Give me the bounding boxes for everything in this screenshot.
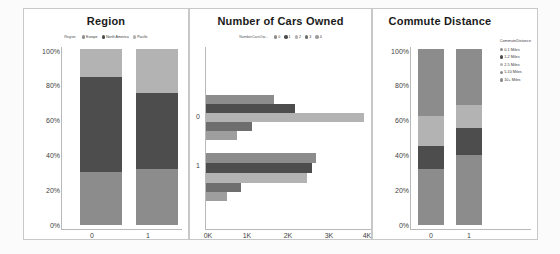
segment-5-10-miles[interactable] (418, 74, 444, 116)
y-tick-label: 60% (377, 117, 409, 124)
legend-label: Pacific (137, 35, 148, 39)
legend-swatch-icon (284, 35, 287, 38)
legend-swatch-icon (102, 35, 105, 38)
segment-1-2-miles[interactable] (418, 146, 444, 169)
y-category-label-1: 1 (196, 162, 200, 169)
plot-area-cars (206, 49, 371, 229)
segment-north-america[interactable] (136, 93, 178, 169)
bar-cars-1-g0[interactable] (206, 104, 295, 113)
legend-region[interactable]: Region Europe North America Pacific (24, 35, 188, 39)
bar-cars-0-g0[interactable] (206, 95, 274, 104)
bar-cars-2-g0[interactable] (206, 113, 364, 122)
stacked-column-1[interactable] (456, 49, 482, 225)
y-tick-label: 40% (28, 152, 60, 159)
bar-cars-4-g0[interactable] (206, 131, 237, 140)
axis-line-x (61, 229, 182, 230)
bar-cars-2-g1[interactable] (206, 173, 307, 183)
legend-swatch-icon (305, 35, 308, 38)
legend-item-cars-4[interactable]: 4 (315, 35, 321, 39)
x-category-label-1: 1 (146, 232, 150, 239)
segment-2-5-miles[interactable] (418, 116, 444, 146)
segment-5-10-miles[interactable] (456, 70, 482, 105)
segment-2-5-miles[interactable] (456, 105, 482, 128)
legend-label: 3 (309, 35, 311, 39)
stacked-column-1[interactable] (136, 49, 178, 225)
chart-panel-region[interactable]: Region Region Europe North America Pacif… (23, 8, 189, 240)
legend-cars[interactable]: NumberCarsOw... 0 1 2 3 4 (190, 35, 371, 39)
y-tick-label: 80% (377, 82, 409, 89)
bar-cars-4-g1[interactable] (206, 192, 227, 201)
segment-europe[interactable] (80, 172, 122, 225)
x-tick-label: 1K (243, 232, 252, 239)
legend-item-cars-2[interactable]: 2 (295, 35, 301, 39)
legend-swatch-icon (133, 35, 136, 38)
y-tick-label: 40% (377, 152, 409, 159)
plot-area-region (68, 49, 182, 225)
legend-item-pacific[interactable]: Pacific (133, 35, 148, 39)
chart-title-commute: Commute Distance (373, 15, 507, 27)
chart-panel-cars[interactable]: Number of Cars Owned NumberCarsOw... 0 1… (189, 8, 372, 240)
y-tick-label: 100% (377, 48, 409, 55)
x-tick-label: 0K (204, 232, 213, 239)
x-category-label-0: 0 (90, 232, 94, 239)
legend-label: 0 (278, 35, 280, 39)
x-tick-label: 4K (363, 232, 372, 239)
segment-1-2-miles[interactable] (456, 128, 482, 154)
x-category-label-1: 1 (467, 232, 471, 239)
legend-label: 4 (320, 35, 322, 39)
stacked-column-0[interactable] (418, 49, 444, 225)
legend-swatch-icon (315, 35, 318, 38)
visualization-canvas: Region Region Europe North America Pacif… (0, 0, 560, 254)
axis-line-x (410, 229, 531, 230)
chart-title-region: Region (24, 15, 188, 27)
segment-pacific[interactable] (80, 49, 122, 77)
y-tick-label: 0% (377, 222, 409, 229)
plot-area-commute (417, 49, 531, 225)
stacked-column-0[interactable] (80, 49, 122, 225)
legend-label: 1 (289, 35, 291, 39)
legend-item-cars-1[interactable]: 1 (284, 35, 290, 39)
y-category-label-0: 0 (196, 113, 200, 120)
segment-10-plus-miles[interactable] (456, 49, 482, 70)
legend-swatch-icon (295, 35, 298, 38)
y-tick-label: 0% (28, 222, 60, 229)
legend-item-europe[interactable]: Europe (82, 35, 98, 39)
bar-cars-0-g1[interactable] (206, 153, 316, 163)
legend-title-cars: NumberCarsOw... (239, 35, 268, 39)
segment-europe[interactable] (136, 169, 178, 225)
legend-title-region: Region (64, 35, 75, 39)
legend-label: Europe (86, 35, 98, 39)
x-tick-label: 2K (284, 232, 293, 239)
segment-pacific[interactable] (136, 49, 178, 93)
axis-line-y (61, 47, 62, 229)
axis-line-y (410, 47, 411, 229)
legend-item-cars-3[interactable]: 3 (305, 35, 311, 39)
y-tick-label: 20% (377, 187, 409, 194)
chart-panel-commute[interactable]: Commute Distance CommuteDistance 0-1 Mil… (372, 8, 538, 240)
axis-line-x (205, 229, 371, 230)
y-tick-label: 80% (28, 82, 60, 89)
x-category-label-0: 0 (429, 232, 433, 239)
legend-item-cars-0[interactable]: 0 (274, 35, 280, 39)
segment-north-america[interactable] (80, 77, 122, 172)
bar-cars-3-g1[interactable] (206, 183, 241, 192)
segment-0-1-miles[interactable] (456, 155, 482, 225)
legend-swatch-icon (82, 35, 85, 38)
segment-10-plus-miles[interactable] (418, 49, 444, 74)
legend-title-commute: CommuteDistance (500, 39, 531, 43)
bar-cars-3-g0[interactable] (206, 122, 252, 131)
legend-label: North America (106, 35, 129, 39)
segment-0-1-miles[interactable] (418, 169, 444, 225)
x-tick-label: 3K (325, 232, 334, 239)
y-tick-label: 60% (28, 117, 60, 124)
legend-swatch-icon (274, 35, 277, 38)
bar-cars-1-g1[interactable] (206, 163, 312, 173)
chart-title-cars: Number of Cars Owned (190, 15, 371, 27)
y-tick-label: 20% (28, 187, 60, 194)
y-tick-label: 100% (28, 48, 60, 55)
legend-item-north-america[interactable]: North America (102, 35, 129, 39)
legend-label: 2 (299, 35, 301, 39)
